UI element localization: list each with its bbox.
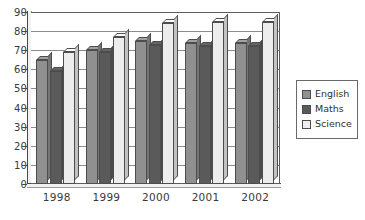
bar-front-face: [36, 60, 48, 184]
bar-maths-1998: [50, 71, 62, 184]
bar-science-2001: [212, 22, 224, 184]
x-tick-label: 2002: [230, 191, 280, 203]
bar-front-face: [86, 50, 98, 184]
bar-group: [131, 12, 181, 184]
bar-maths-1999: [99, 52, 111, 184]
y-axis-labels: 0102030405060708090: [0, 0, 27, 220]
bar-front-face: [149, 45, 161, 185]
legend: EnglishMathsScience: [296, 80, 358, 139]
bar-english-1999: [86, 50, 98, 184]
bar-chart: 0102030405060708090 19981999200020012002…: [0, 0, 365, 220]
bar-front-face: [199, 46, 211, 184]
bar-group: [32, 12, 82, 184]
legend-item-maths[interactable]: Maths: [302, 103, 353, 115]
legend-swatch-icon: [302, 120, 311, 129]
x-tick-label: 2000: [131, 191, 181, 203]
bar-maths-2000: [149, 45, 161, 185]
bar-front-face: [235, 43, 247, 184]
x-tick-label: 1999: [82, 191, 132, 203]
legend-label: Maths: [315, 104, 344, 114]
bar-english-1998: [36, 60, 48, 184]
bar-english-2001: [185, 43, 197, 184]
bar-group: [230, 12, 280, 184]
bar-front-face: [135, 41, 147, 184]
bar-front-face: [248, 46, 260, 184]
bar-science-2000: [162, 23, 174, 184]
bar-front-face: [113, 37, 125, 184]
bar-side-face: [125, 29, 129, 180]
bar-front-face: [162, 23, 174, 184]
legend-item-science[interactable]: Science: [302, 118, 353, 130]
bar-group: [181, 12, 231, 184]
bar-science-1998: [63, 52, 75, 184]
legend-swatch-icon: [302, 105, 311, 114]
bar-front-face: [212, 22, 224, 184]
bar-side-face: [75, 44, 79, 180]
bar-maths-2001: [199, 46, 211, 184]
bar-side-face: [174, 15, 178, 180]
bar-maths-2002: [248, 46, 260, 184]
bar-front-face: [185, 43, 197, 184]
x-tick-label: 2001: [181, 191, 231, 203]
bar-english-2002: [235, 43, 247, 184]
bar-science-1999: [113, 37, 125, 184]
legend-swatch-icon: [302, 90, 311, 99]
bar-group: [82, 12, 132, 184]
bar-front-face: [262, 22, 274, 184]
bar-front-face: [63, 52, 75, 184]
bar-front-face: [99, 52, 111, 184]
legend-item-english[interactable]: English: [302, 88, 353, 100]
bar-front-face: [50, 71, 62, 184]
x-tick-label: 1998: [32, 191, 82, 203]
bars-layer: [32, 12, 280, 184]
bar-english-2000: [135, 41, 147, 184]
bar-side-face: [224, 13, 228, 180]
bar-science-2002: [262, 22, 274, 184]
legend-label: English: [315, 89, 349, 99]
legend-label: Science: [315, 119, 352, 129]
bar-side-face: [274, 13, 278, 180]
